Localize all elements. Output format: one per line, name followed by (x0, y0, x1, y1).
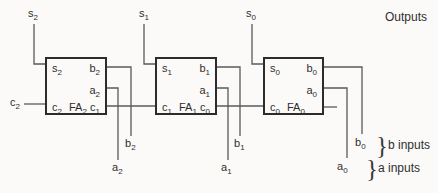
fa2-b-wire (107, 67, 131, 136)
fa2-carry-left-pin: c2 (52, 101, 62, 115)
fa0-b-wire (324, 67, 362, 134)
fa2-b-pin: b2 (89, 62, 100, 76)
fa1-a-input-label: a1 (221, 161, 232, 175)
fa0-carry-left-pin: c0 (270, 101, 280, 115)
fa0-b-input-label: b0 (355, 136, 366, 150)
outputs-label: Outputs (385, 11, 427, 24)
fa1-sum-pin: s1 (162, 62, 172, 76)
a-inputs-brace: } (366, 156, 378, 181)
fa1-sum-wire (144, 24, 155, 64)
fa1-box-label: FA1 (179, 101, 197, 115)
a-inputs-label: a inputs (378, 162, 420, 175)
b-inputs-label: b inputs (388, 139, 430, 152)
fa0-box-label: FA0 (287, 101, 305, 115)
fa2-sum-pin: s2 (52, 62, 62, 76)
fa2-sum-label: s2 (28, 7, 38, 21)
fa1-sum-label: s1 (139, 7, 149, 21)
fa0-sum-label: s0 (246, 7, 256, 21)
fa2-sum-wire (34, 24, 45, 64)
fa1-a-wire (217, 88, 228, 160)
fa2-a-input-label: a2 (112, 161, 123, 175)
fa0-a-input-label: a0 (337, 160, 348, 174)
carry-out-label: c2 (10, 96, 20, 110)
fa1-a-pin: a1 (199, 84, 210, 98)
fa0-a-wire (324, 88, 347, 158)
fa1-b-input-label: b1 (234, 137, 245, 151)
fa0-sum-wire (252, 24, 263, 64)
fa2-carry-right-pin: c1 (90, 101, 100, 115)
fa1-carry-left-pin: c1 (162, 101, 172, 115)
fa1-b-pin: b1 (199, 62, 210, 76)
fa0-a-pin: a0 (306, 84, 317, 98)
fa2-a-pin: a2 (89, 84, 100, 98)
fa2-a-wire (107, 88, 118, 160)
fa1-carry-right-pin: c0 (200, 101, 210, 115)
fa0-b-pin: b0 (306, 62, 317, 76)
fa2-box-label: FA2 (69, 101, 87, 115)
fa2-box: s2 b2 a2 c2 FA2 c1 (45, 57, 107, 115)
fa1-box: s1 b1 a1 c1 FA1 c0 (155, 57, 217, 115)
fa0-box: s0 b0 a0 c0 FA0 (263, 57, 324, 115)
fa0-sum-pin: s0 (270, 62, 280, 76)
ripple-carry-adder-diagram: s2 b2 a2 c2 FA2 c1 s1 b1 a1 c1 FA1 c0 s0… (0, 0, 438, 193)
fa2-b-input-label: b2 (125, 137, 136, 151)
